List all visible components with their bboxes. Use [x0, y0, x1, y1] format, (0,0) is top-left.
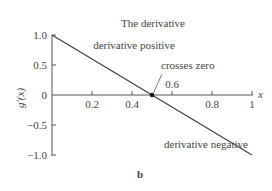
y-tick-label: −0.5: [27, 119, 47, 131]
x-axis-label: x: [257, 88, 263, 100]
y-tick-label: −1.0: [27, 149, 47, 161]
x-tick-label: 0.4: [125, 98, 139, 110]
annotation-negative: derivative negative: [164, 138, 248, 150]
y-tick-label: 1.0: [33, 29, 47, 41]
annotation-crosses-zero: crosses zero: [161, 59, 215, 71]
chart: 1.0 0.5 0 −0.5 −1.0 0.2 0.4 0.6 0.8 1 x …: [0, 0, 272, 191]
panel-label: b: [137, 168, 143, 180]
y-axis-label: g′(x): [14, 88, 27, 108]
x-tick-label: 0.6: [165, 78, 179, 90]
chart-title: The derivative: [121, 17, 185, 29]
x-tick-label: 0.2: [85, 98, 99, 110]
y-tick-label: 0.5: [33, 59, 47, 71]
y-tick-label: 0: [42, 89, 48, 101]
x-tick-label: 0.8: [205, 98, 219, 110]
annotation-positive: derivative positive: [93, 39, 175, 51]
x-tick-label: 1: [249, 98, 255, 110]
